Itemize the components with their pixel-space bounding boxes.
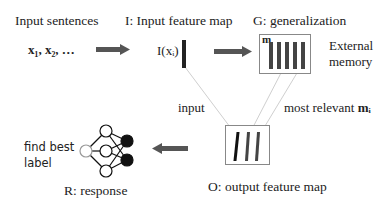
memory-slot <box>293 42 297 69</box>
output-feature-box <box>225 125 270 165</box>
input-feature-bar <box>182 40 186 68</box>
memory-connector-line-1 <box>251 73 281 131</box>
memory-slot <box>301 42 305 69</box>
input-feature-label: I(xᵢ) <box>157 43 179 59</box>
most-relevant-edge-label: most relevant mᵢ <box>284 100 371 116</box>
memory-slot <box>285 42 289 69</box>
generalization-title: G: generalization <box>253 13 346 29</box>
output-feature-slot <box>233 132 239 161</box>
input-edge-label: input <box>178 100 205 116</box>
output-feature-slot <box>245 132 250 161</box>
input-connector-line <box>185 67 233 131</box>
arrow-right-icon <box>214 46 252 57</box>
external-memory-label-line1: External <box>329 38 373 54</box>
response-title: R: response <box>64 183 127 199</box>
input-sequence-label: x₁, x₂, … <box>28 42 75 58</box>
external-memory-box: m <box>259 34 311 74</box>
memory-slot <box>277 42 281 69</box>
input-feature-map-title: I: Input feature map <box>125 13 233 29</box>
arrow-right-icon <box>96 44 130 55</box>
find-best-label-line2: label <box>24 156 52 170</box>
most-relevant-text: most relevant <box>284 100 358 115</box>
most-relevant-symbol: mᵢ <box>358 100 371 115</box>
memory-slot <box>269 42 273 69</box>
external-memory-label-line2: memory <box>329 54 372 70</box>
output-feature-map-title: O: output feature map <box>208 179 327 195</box>
find-best-label-line1: find best <box>24 140 74 154</box>
output-feature-slot <box>255 132 260 161</box>
arrow-left-icon <box>152 143 188 154</box>
neural-network-icon <box>80 125 133 177</box>
input-sentences-label: Input sentences <box>15 13 99 29</box>
